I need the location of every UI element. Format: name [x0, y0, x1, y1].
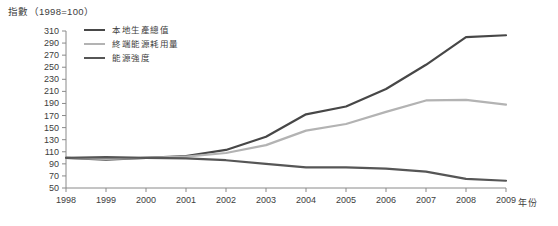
- y-tick-label: 110: [45, 147, 59, 157]
- legend-label: 本地生產總值: [112, 25, 169, 35]
- x-tick-label: 2003: [256, 195, 276, 205]
- x-tick-label: 2006: [376, 195, 396, 205]
- y-tick-label: 270: [44, 50, 59, 60]
- x-tick-label: 2001: [176, 195, 196, 205]
- legend-swatch: [84, 57, 105, 59]
- series-line-1: [66, 100, 506, 159]
- legend: 本地生產總值終端能源耗用量能源強度: [84, 25, 179, 63]
- y-tick-label: 250: [44, 62, 59, 72]
- x-tick-label: 2002: [216, 195, 236, 205]
- y-tick-label: 310: [44, 26, 59, 36]
- legend-swatch: [84, 43, 105, 45]
- y-tick-label: 170: [44, 111, 59, 121]
- legend-label: 能源強度: [112, 53, 150, 63]
- y-tick-label: 290: [44, 38, 59, 48]
- x-tick-label: 2007: [416, 195, 436, 205]
- y-tick-label: 210: [44, 86, 59, 96]
- y-tick-label: 70: [49, 171, 59, 181]
- y-tick-label: 230: [44, 74, 59, 84]
- y-tick-label: 90: [49, 159, 59, 169]
- x-tick-label: 2004: [296, 195, 316, 205]
- y-tick-label: 150: [44, 123, 59, 133]
- legend-item: 能源強度: [84, 53, 179, 63]
- series-line-2: [66, 157, 506, 181]
- x-tick-label: 1999: [96, 195, 116, 205]
- y-tick-label: 50: [49, 183, 59, 193]
- x-tick-label: 2005: [336, 195, 356, 205]
- legend-label: 終端能源耗用量: [112, 39, 179, 49]
- legend-swatch: [84, 29, 105, 31]
- x-tick-label: 2008: [456, 195, 476, 205]
- x-tick-label: 2000: [136, 195, 156, 205]
- x-tick-label: 2009: [496, 195, 516, 205]
- x-tick-label: 1998: [56, 195, 76, 205]
- y-tick-label: 130: [44, 135, 59, 145]
- legend-item: 終端能源耗用量: [84, 39, 179, 49]
- chart-container: 指數（1998=100） 507090110130150170190210230…: [0, 0, 558, 226]
- legend-item: 本地生產總值: [84, 25, 179, 35]
- x-axis-unit-label: 年份: [518, 196, 538, 209]
- y-tick-label: 190: [44, 98, 59, 108]
